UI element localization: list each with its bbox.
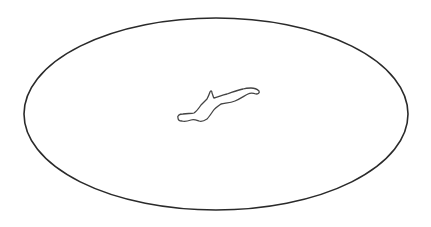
inner-island-shape [178,88,260,121]
diagram-canvas [0,0,431,227]
outer-ellipse [24,18,408,210]
